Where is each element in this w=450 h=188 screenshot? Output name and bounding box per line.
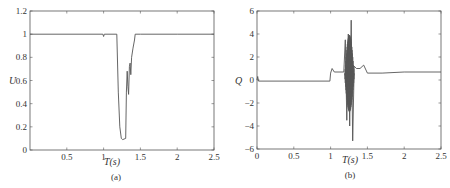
panel-caption: (a) xyxy=(111,172,121,182)
y-tick-label: 0.4 xyxy=(16,99,28,109)
x-tick-label: 0.5 xyxy=(61,152,73,162)
y-tick-label: 0.8 xyxy=(16,52,28,62)
axes-frame xyxy=(30,11,214,150)
x-tick-label: 0 xyxy=(255,151,260,161)
x-axis-label: T(s) xyxy=(104,156,121,168)
y-tick-label: 1.2 xyxy=(16,6,27,16)
chart-panel-a: 0.511.522.500.20.40.60.811.2 U T(s) (a) xyxy=(0,0,225,188)
y-axis-label: U xyxy=(9,75,17,86)
x-axis-label: T(s) xyxy=(342,154,359,166)
y-tick-label: −2 xyxy=(244,98,254,108)
x-tick-label: 2.5 xyxy=(208,152,220,162)
x-tick-label: 1.5 xyxy=(135,152,147,162)
y-tick-label: 6 xyxy=(250,6,255,16)
y-tick-label: 0 xyxy=(23,145,28,155)
y-tick-label: 1 xyxy=(23,29,28,39)
y-tick-label: 4 xyxy=(250,29,255,39)
y-tick-label: 0 xyxy=(250,75,255,85)
panel-caption: (b) xyxy=(345,170,356,180)
x-tick-label: 2.5 xyxy=(435,151,447,161)
x-tick-label: 1 xyxy=(328,151,333,161)
x-tick-label: 1.5 xyxy=(362,151,374,161)
y-tick-label: 0.6 xyxy=(16,76,28,86)
y-tick-label: −6 xyxy=(244,144,254,154)
y-tick-label: 0.2 xyxy=(16,122,27,132)
plot-area xyxy=(257,11,441,149)
x-tick-label: 2 xyxy=(402,151,407,161)
x-tick-label: 2 xyxy=(175,152,180,162)
plot-area xyxy=(30,11,214,150)
x-tick-label: 0.5 xyxy=(288,151,300,161)
y-tick-label: 2 xyxy=(250,52,255,62)
voltage-chart: 0.511.522.500.20.40.60.811.2 U T(s) (a) xyxy=(0,0,225,188)
y-axis-label: Q xyxy=(235,75,243,86)
chart-panel-b: 00.511.522.5−6−4−20246 Q T(s) (b) xyxy=(225,0,450,188)
y-tick-label: −4 xyxy=(244,121,254,131)
reactive-power-chart: 00.511.522.5−6−4−20246 Q T(s) (b) xyxy=(225,0,450,188)
series-line xyxy=(30,34,214,139)
